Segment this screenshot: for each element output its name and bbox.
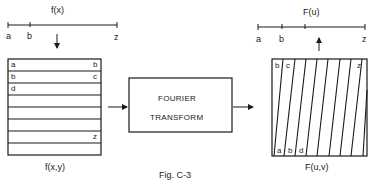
right-axis-title: F(u) (303, 8, 320, 17)
left-axis-label-z: z (114, 33, 119, 42)
right-bottom-label-d: d (299, 147, 303, 155)
transform-label-line1: FOURIER (158, 94, 196, 103)
left-row-7-right: z (93, 133, 97, 141)
right-axis-label-z: z (362, 35, 367, 44)
left-grid-title: f(x,y) (45, 163, 65, 172)
right-axis-label-a: a (256, 35, 261, 44)
left-axis-title: f(x) (51, 6, 64, 15)
left-row-1-right: b (93, 61, 97, 69)
transform-label-line2: TRANSFORM (150, 113, 203, 122)
left-axis-label-b: b (27, 32, 32, 41)
left-row-2-left: b (11, 73, 15, 81)
left-axis (8, 22, 117, 28)
left-grid (8, 59, 101, 155)
figure-caption: Fig. C-3 (159, 171, 191, 180)
left-axis-label-a: a (6, 32, 11, 41)
right-grid-title: F(u,v) (305, 163, 329, 172)
right-top-label-z: z (357, 62, 361, 70)
right-axis (258, 24, 365, 30)
right-axis-label-b: b (279, 35, 284, 44)
left-row-3-left: d (11, 85, 15, 93)
right-bottom-label-b: b (288, 147, 292, 155)
right-top-label-b: b (275, 62, 279, 70)
right-top-label-c: c (286, 62, 290, 70)
right-bottom-label-a: a (277, 147, 281, 155)
right-grid (272, 59, 367, 156)
transform-box (129, 78, 232, 132)
left-row-1-left: a (11, 61, 15, 69)
left-row-2-right: c (93, 73, 97, 81)
